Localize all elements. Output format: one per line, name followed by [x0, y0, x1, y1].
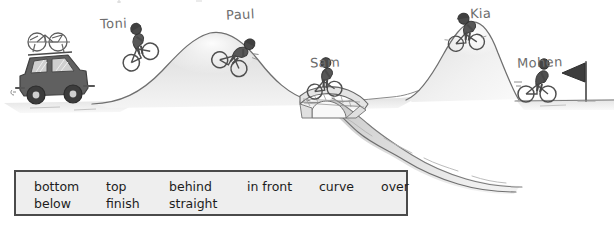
word-over: over: [381, 178, 431, 195]
label-sam: Sam: [310, 55, 341, 69]
word-below: below: [34, 195, 106, 212]
car-roof-rail: [28, 52, 72, 55]
flag-cloth: [562, 63, 585, 82]
word-straight: straight: [169, 195, 247, 212]
word-bank-row-1: bottomtopbehindin frontcurveover: [34, 178, 406, 195]
word-bank-box: bottomtopbehindin frontcurveover belowfi…: [14, 170, 408, 216]
car-side-mark: [11, 90, 16, 95]
word-top: top: [106, 178, 169, 195]
label-mohen: Mohen: [517, 55, 563, 70]
word-in-front: in front: [247, 178, 319, 195]
finish-flag: [562, 62, 595, 101]
illustration-scene: Toni Paul Sam Kia Mohen bottomtopbehindi…: [0, 0, 614, 237]
word-finish: finish: [106, 195, 169, 212]
word-behind: behind: [169, 178, 247, 195]
roof-bicycles: [28, 33, 70, 52]
label-toni: Toni: [100, 17, 128, 31]
label-paul: Paul: [226, 7, 255, 21]
mohen-speed-lines: [514, 82, 522, 86]
word-bottom: bottom: [34, 178, 106, 195]
cutoff-text-artifacts: [117, 0, 202, 3]
word-bank-row-2: belowfinishstraight: [34, 195, 406, 212]
label-kia: Kia: [470, 7, 492, 21]
word-curve: curve: [319, 178, 381, 195]
car-with-roof-bike-rack: [11, 33, 94, 104]
